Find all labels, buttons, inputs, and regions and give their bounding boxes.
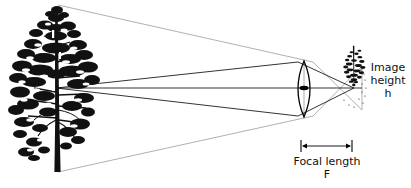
focal-length-line-2: F [286,168,368,181]
optics-diagram-figure: Image height h Focal length F [0,0,411,188]
focal-length-label: Focal length F [286,155,368,181]
image-height-line-3: h [366,87,410,100]
focal-length-line-1: Focal length [286,155,368,168]
lens-center-node [300,86,309,90]
image-height-line-1: Image [366,61,410,74]
image-height-label: Image height h [366,61,410,100]
image-height-line-2: height [366,74,410,87]
